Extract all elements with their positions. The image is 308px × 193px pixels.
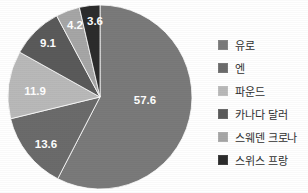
legend-item[interactable]: 스웨덴 크로나 [218, 125, 308, 148]
legend-color-swatch [218, 40, 228, 50]
legend-item-label: 엔 [235, 60, 245, 76]
legend-color-swatch [218, 132, 228, 142]
legend-item[interactable]: 스위스 프랑 [218, 148, 308, 171]
pie-plot-area: 57.613.611.99.14.23.6 [6, 3, 194, 191]
legend-item-label: 스웨덴 크로나 [235, 129, 297, 145]
pie-data-label: 9.1 [40, 37, 57, 49]
pie-data-label: 11.9 [24, 85, 46, 97]
legend-item[interactable]: 카나다 달러 [218, 102, 308, 125]
legend-color-swatch [218, 86, 228, 96]
legend-color-swatch [218, 109, 228, 119]
legend-color-swatch [218, 155, 228, 165]
legend-item-label: 파운드 [235, 83, 265, 99]
pie-data-label: 13.6 [35, 138, 57, 150]
pie-svg: 57.613.611.99.14.23.6 [6, 3, 194, 191]
legend-color-swatch [218, 63, 228, 73]
pie-data-label: 4.2 [67, 19, 83, 31]
pie-slice-group [8, 5, 192, 189]
pie-chart-figure: 57.613.611.99.14.23.6 유로엔파운드카나다 달러스웨덴 크로… [0, 0, 308, 193]
legend-item[interactable]: 엔 [218, 56, 308, 79]
legend-item-label: 카나다 달러 [235, 106, 287, 122]
legend-item-label: 스위스 프랑 [235, 152, 287, 168]
legend-item[interactable]: 유로 [218, 33, 308, 56]
pie-data-label: 57.6 [134, 94, 156, 106]
pie-data-label: 3.6 [87, 15, 103, 27]
chart-legend: 유로엔파운드카나다 달러스웨덴 크로나스위스 프랑 [218, 33, 308, 171]
legend-item[interactable]: 파운드 [218, 79, 308, 102]
legend-item-label: 유로 [235, 37, 255, 53]
